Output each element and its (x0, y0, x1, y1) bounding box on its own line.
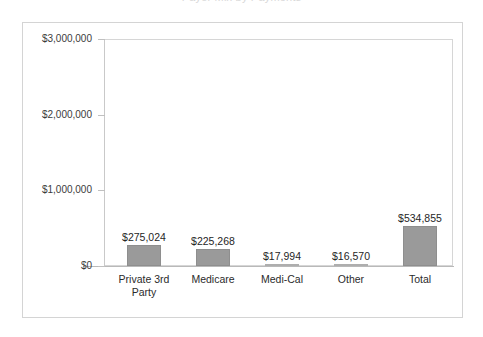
y-tick-0 (98, 266, 105, 267)
category-label-other: Other (316, 273, 386, 286)
data-label-private-3rd-party: $275,024 (109, 231, 179, 243)
y-axis-label-2000000: $2,000,000 (23, 110, 96, 120)
category-label-medi-cal: Medi-Cal (247, 273, 317, 286)
bar-other[interactable] (334, 264, 368, 266)
bar-total[interactable] (403, 226, 437, 266)
category-label-medicare: Medicare (178, 273, 248, 286)
y-tick-1000000 (98, 190, 105, 191)
bar-medicare[interactable] (196, 249, 230, 266)
clipped-chart-title: Payor Mix by Payments (0, 0, 483, 3)
y-tick-2000000 (98, 115, 105, 116)
category-label-private-3rd-party: Private 3rd Party (109, 273, 179, 299)
y-tick-3000000 (98, 39, 105, 40)
y-axis-label-1000000: $1,000,000 (23, 185, 96, 195)
x-axis-baseline (83, 266, 454, 267)
data-label-medi-cal: $17,994 (251, 250, 313, 262)
bar-medi-cal[interactable] (265, 264, 299, 266)
bar-private-3rd-party[interactable] (127, 245, 161, 266)
y-axis-label-3000000: $3,000,000 (23, 34, 96, 44)
data-label-other: $16,570 (320, 250, 382, 262)
chart-frame: $0 $1,000,000 $2,000,000 $3,000,000 $275… (22, 22, 463, 318)
y-axis-label-0: $0 (23, 261, 96, 271)
category-label-total: Total (385, 273, 455, 286)
y-axis-spine (104, 39, 105, 267)
data-label-total: $534,855 (385, 212, 455, 224)
data-label-medicare: $225,268 (178, 235, 248, 247)
